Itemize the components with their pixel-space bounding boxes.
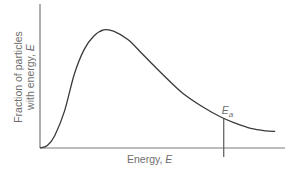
y-axis-label: Fraction of particles with energy, E [12,31,36,123]
activation-energy-label: Ea [222,104,234,119]
distribution-curve [40,30,275,148]
y-axis-label-line1: Fraction of particles [12,31,24,123]
y-axis-label-line2: with energy, E [24,43,36,111]
chart: Ea Energy, E Fraction of particles with … [0,0,293,176]
x-axis-label: Energy, E [127,153,173,165]
